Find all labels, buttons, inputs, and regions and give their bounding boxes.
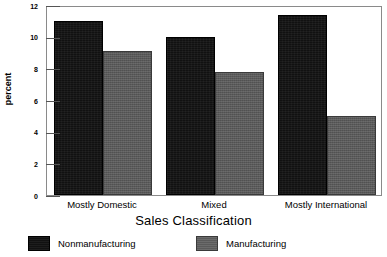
gray-swatch-icon [196, 236, 218, 251]
y-tick-10 [46, 38, 60, 39]
bar-chart: percent 024681012 Mostly DomesticMixedMo… [0, 0, 387, 257]
y-tick-label-12: 12 [14, 3, 38, 10]
y-tick-label-10: 10 [14, 34, 38, 41]
y-tick-8 [46, 69, 60, 70]
dark-swatch-icon [28, 236, 50, 251]
y-tick-label-0: 0 [14, 193, 38, 200]
x-axis-title: Sales Classification [0, 213, 387, 228]
legend-label: Manufacturing [226, 238, 286, 249]
x-axis-label-mostly-international: Mostly International [270, 199, 382, 210]
x-axis-label-mixed: Mixed [158, 199, 270, 210]
x-axis-label-mostly-domestic: Mostly Domestic [46, 199, 158, 210]
y-tick-label-2: 2 [14, 161, 38, 168]
y-tick-label-8: 8 [14, 66, 38, 73]
y-tick-6 [46, 101, 60, 102]
y-tick-12 [46, 6, 60, 7]
y-tick-0 [46, 196, 60, 197]
y-axis-ticks [46, 6, 382, 196]
y-tick-label-4: 4 [14, 129, 38, 136]
y-tick-2 [46, 164, 60, 165]
chart-legend: NonmanufacturingManufacturing [0, 236, 387, 254]
legend-label: Nonmanufacturing [58, 238, 136, 249]
y-tick-4 [46, 133, 60, 134]
y-tick-label-6: 6 [14, 98, 38, 105]
